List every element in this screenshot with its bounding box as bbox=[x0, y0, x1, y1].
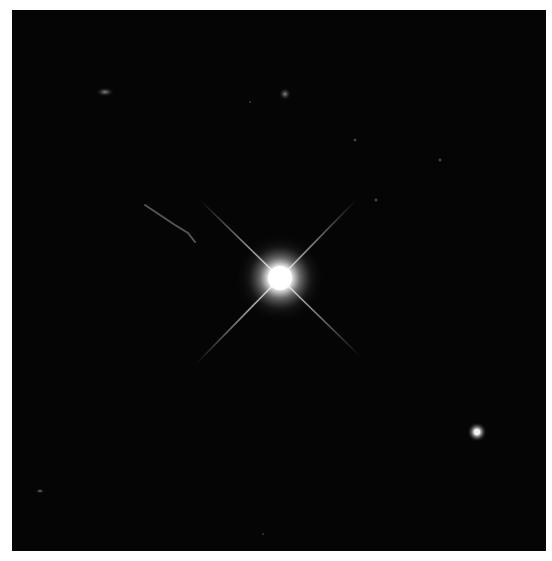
faint-object bbox=[261, 532, 264, 535]
companion-star bbox=[474, 429, 480, 435]
space-photo: Deep-space photograph of a bright star w… bbox=[12, 10, 546, 551]
primary-star bbox=[268, 266, 292, 290]
faint-object bbox=[248, 100, 251, 103]
faint-object bbox=[374, 198, 379, 203]
faint-object bbox=[95, 87, 114, 97]
faint-object bbox=[438, 158, 443, 163]
faint-object bbox=[35, 489, 45, 494]
star-field bbox=[12, 10, 546, 551]
faint-object bbox=[279, 88, 292, 101]
faint-object bbox=[353, 138, 358, 143]
